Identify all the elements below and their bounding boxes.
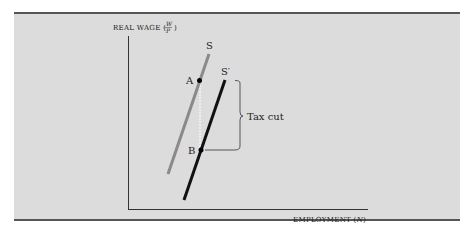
curve-s bbox=[168, 54, 209, 174]
point-b bbox=[199, 148, 204, 153]
tax-cut-bracket bbox=[205, 81, 243, 151]
labor-supply-diagram: REAL WAGE ( W P ) EMPLOYMENT (N) S S′ A … bbox=[0, 0, 472, 243]
curve-s-label: S bbox=[206, 40, 213, 51]
point-b-label: B bbox=[188, 145, 195, 156]
curve-s-prime bbox=[184, 80, 225, 200]
x-axis-label: EMPLOYMENT (N) bbox=[293, 216, 366, 224]
point-a bbox=[197, 78, 202, 83]
point-a-label: A bbox=[185, 75, 194, 86]
y-axis-frac-num: W bbox=[166, 20, 173, 27]
tax-cut-label: Tax cut bbox=[247, 111, 284, 122]
y-axis-label: REAL WAGE ( bbox=[113, 24, 166, 32]
curve-s-prime-label: S′ bbox=[221, 66, 231, 77]
y-axis-frac-den: P bbox=[165, 27, 171, 34]
y-axis-label-close: ) bbox=[174, 24, 177, 32]
